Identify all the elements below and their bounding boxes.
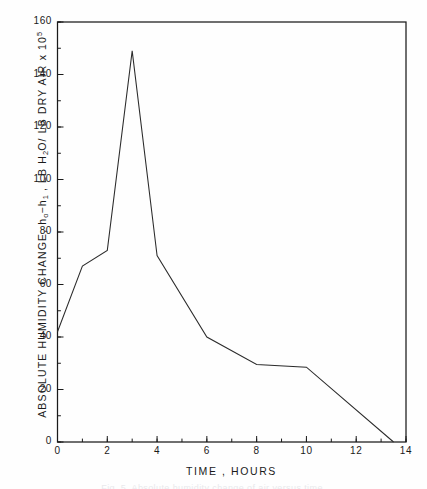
y-axis-tick-label: 160 xyxy=(18,16,52,28)
y-axis-tick-label: 40 xyxy=(18,331,52,343)
y-axis-tick-label-text: 120 xyxy=(18,121,52,131)
y-axis-tick-label-text: 80 xyxy=(18,226,52,236)
x-axis-tick-label: 12 xyxy=(341,446,371,458)
chart-plot-area xyxy=(0,0,427,489)
x-axis-tick-label: 6 xyxy=(192,446,222,458)
y-axis-tick-label-text: 60 xyxy=(18,279,52,289)
y-axis-tick-label-text: 160 xyxy=(18,16,52,26)
y-axis-tick-label: 120 xyxy=(18,121,52,133)
x-axis-tick-label-text: 10 xyxy=(291,446,321,456)
x-axis-tick-label: 0 xyxy=(43,446,73,458)
x-axis-tick-label: 4 xyxy=(142,446,172,458)
x-axis-tick-label: 2 xyxy=(92,446,122,458)
y-axis-tick-label-text: 140 xyxy=(18,69,52,79)
x-axis-tick-label: 10 xyxy=(291,446,321,458)
y-axis-tick-label-text: 100 xyxy=(18,174,52,184)
x-axis-tick-label-text: 2 xyxy=(92,446,122,456)
y-axis-tick-label: 80 xyxy=(18,226,52,238)
figure-caption: Fig. 5. Absolute humidity change of air … xyxy=(0,483,427,489)
x-axis-tick-label-text: 12 xyxy=(341,446,371,456)
y-axis-tick-label-text: 40 xyxy=(18,331,52,341)
x-axis-tick-label-text: 0 xyxy=(43,446,73,456)
x-axis-tick-label: 14 xyxy=(391,446,421,458)
data-series-line xyxy=(58,51,394,442)
x-axis-tick-label-text: 6 xyxy=(192,446,222,456)
y-axis-tick-label-text: 20 xyxy=(18,384,52,394)
y-axis-tick-label: 140 xyxy=(18,69,52,81)
x-axis-tick-label-text: 4 xyxy=(142,446,172,456)
x-axis-tick-label: 8 xyxy=(242,446,272,458)
figure-panel: 020406080100120140160 02468101214 ABSOLU… xyxy=(0,0,427,489)
y-axis-tick-label: 60 xyxy=(18,279,52,291)
x-axis-title: TIME , HOURS xyxy=(57,466,406,477)
y-axis-tick-label-text: 0 xyxy=(18,436,52,446)
y-axis-tick-label: 100 xyxy=(18,174,52,186)
y-axis-tick-label: 20 xyxy=(18,384,52,396)
x-axis-tick-label-text: 8 xyxy=(242,446,272,456)
x-axis-tick-label-text: 14 xyxy=(391,446,421,456)
